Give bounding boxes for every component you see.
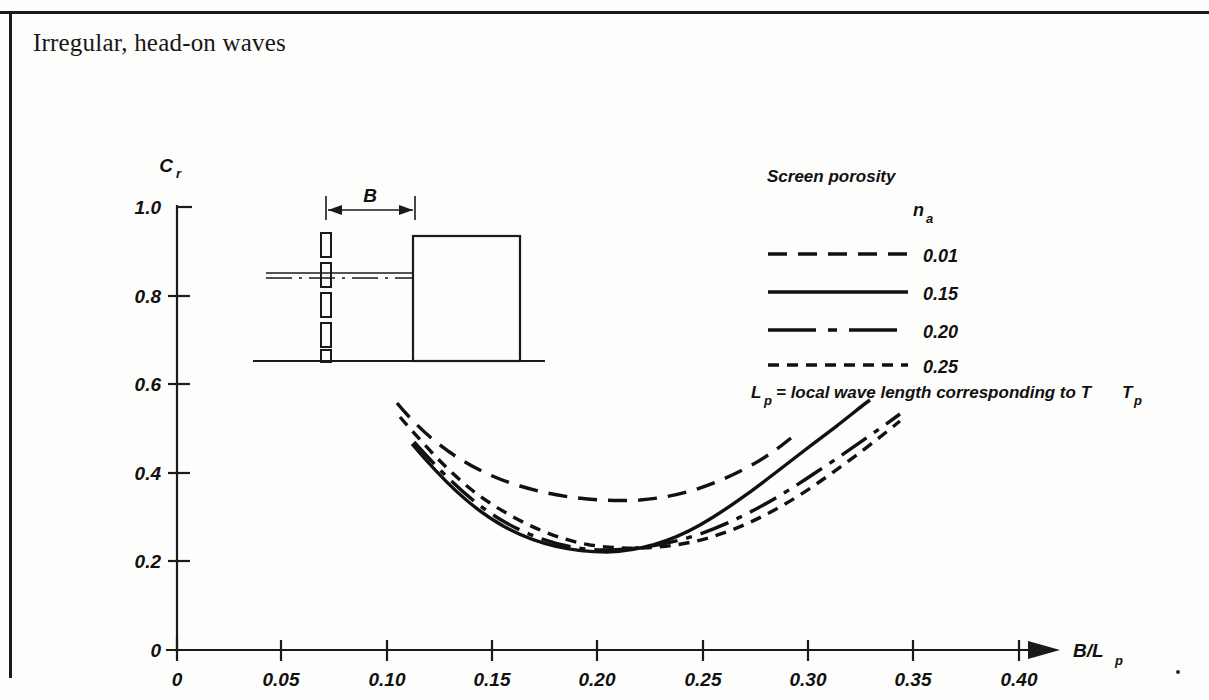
x-tick-label: 0.30 [790, 669, 827, 690]
x-axis-arrow [1028, 641, 1060, 659]
legend-symbol: n [913, 200, 924, 220]
legend-note: L p = local wave length corresponding to… [751, 383, 1142, 408]
y-tick-label: 0.8 [135, 286, 162, 307]
inset-sketch: B [253, 185, 545, 362]
inset-dimension-label: B [363, 185, 377, 206]
inset-dim-arrow-left [328, 205, 342, 215]
x-tick-label: 0.35 [895, 669, 932, 690]
legend-title: Screen porosity [767, 167, 897, 186]
legend-note-lead-subscript: p [763, 393, 772, 408]
inset-wall [413, 236, 520, 361]
y-axis-title-subscript: r [176, 166, 182, 181]
x-axis-title-subscript: p [1114, 653, 1123, 668]
inset-dim-arrow-right [399, 205, 413, 215]
x-tick-label: 0.40 [1001, 669, 1038, 690]
y-tick-label: 0 [150, 640, 161, 661]
x-tick-label: 0 [172, 669, 183, 690]
y-tick-label: 0.4 [135, 463, 162, 484]
x-tick-label: 0.10 [369, 669, 406, 690]
data-curves [397, 400, 900, 552]
inset-screen-slot [321, 323, 331, 347]
legend-note-body: = local wave length corresponding to T [776, 383, 1093, 402]
legend-label: 0.25 [923, 357, 959, 377]
y-axis-title: C r [159, 155, 182, 181]
figure-root: Irregular, head-on waves C [0, 0, 1209, 700]
inset-screen-slot [321, 293, 331, 317]
y-axis [168, 205, 192, 652]
y-axis-title-text: C [159, 155, 173, 176]
y-tick-label: 0.2 [135, 551, 162, 572]
legend: Screen porosity n a 0.01 0.15 0.20 0.25 … [751, 167, 1142, 408]
legend-note-tail-subscript: p [1133, 393, 1142, 408]
x-tick-labels: 0 0.05 0.10 0.15 0.20 0.25 0.30 0.35 0.4… [172, 669, 1038, 690]
inset-screen-slot [321, 233, 331, 257]
x-axis-title-text: B/L [1073, 640, 1104, 661]
curve-na-0-15 [412, 400, 870, 552]
x-tick-label: 0.25 [685, 669, 722, 690]
y-tick-labels: 0 0.2 0.4 0.6 0.8 1.0 [135, 197, 162, 661]
x-tick-label: 0.20 [579, 669, 616, 690]
y-tick-label: 1.0 [135, 197, 162, 218]
y-tick-label: 0.6 [135, 374, 162, 395]
legend-symbol-subscript: a [926, 211, 933, 226]
legend-note-tail: T [1122, 383, 1134, 402]
legend-label: 0.15 [923, 284, 959, 304]
legend-note-lead: L [751, 383, 761, 402]
inset-screen-slot [321, 263, 331, 287]
stray-dot-artifact [1176, 670, 1180, 674]
legend-label: 0.01 [923, 246, 958, 266]
x-axis [166, 638, 1060, 661]
x-axis-title: B/L p [1073, 640, 1123, 668]
x-tick-label: 0.05 [263, 669, 300, 690]
legend-label: 0.20 [923, 322, 958, 342]
chart-canvas: C r B/L p 0 0.2 0.4 0.6 0.8 1.0 0 0.05 0… [0, 0, 1209, 700]
x-tick-label: 0.15 [474, 669, 511, 690]
